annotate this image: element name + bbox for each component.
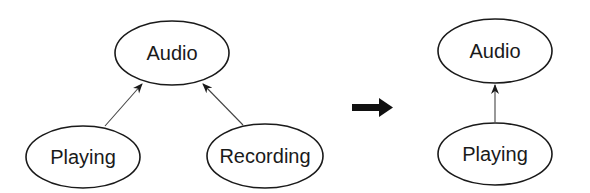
node-playing-left: Playing (26, 126, 140, 188)
node-recording: Recording (207, 124, 323, 188)
right-diagram: Audio Playing (438, 19, 552, 185)
left-diagram: Audio Playing Recording (26, 21, 323, 188)
node-label: Audio (469, 40, 520, 62)
node-audio-left: Audio (115, 21, 229, 85)
diagram-canvas: Audio Playing Recording Audio Playing (0, 0, 590, 193)
right-arrow-icon (352, 98, 393, 117)
node-label: Recording (219, 145, 310, 167)
node-label: Audio (146, 42, 197, 64)
node-playing-right: Playing (438, 123, 552, 185)
edge-recording-to-audio (203, 84, 243, 125)
node-audio-right: Audio (438, 19, 552, 83)
node-label: Playing (462, 143, 528, 165)
node-label: Playing (50, 146, 116, 168)
edge-playing-to-audio (105, 84, 142, 126)
